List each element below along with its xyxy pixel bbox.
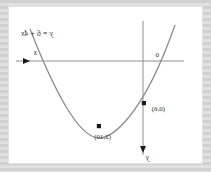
point-dot-2-10 <box>97 124 101 128</box>
figure-root: y = 6 + 4x 0 x y (0,6) (2,10) <box>0 0 211 172</box>
y-axis-arrow-icon <box>140 146 146 153</box>
point-label-0-6: (0,6) <box>151 105 165 113</box>
point-dot-0-6 <box>142 101 146 105</box>
origin-label: 0 <box>155 51 159 59</box>
x-axis-arrow-icon <box>23 58 30 64</box>
parabola-curve <box>30 25 175 138</box>
plot-canvas: y = 6 + 4x 0 x y (0,6) (2,10) <box>9 7 202 163</box>
x-axis-label: x <box>33 48 38 57</box>
equation-label: y = 6 + 4x <box>21 29 54 38</box>
plot-panel: y = 6 + 4x 0 x y (0,6) (2,10) <box>9 7 202 163</box>
point-label-2-10: (2,10) <box>93 133 111 141</box>
y-axis-label: y <box>145 153 150 162</box>
